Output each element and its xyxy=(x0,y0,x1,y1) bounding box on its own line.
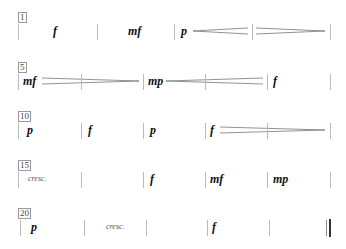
dynamic-mark: mp xyxy=(273,172,288,186)
measure-number: 5 xyxy=(18,62,27,73)
dynamic-mark: p xyxy=(27,123,33,137)
system-1: 1 f mf p xyxy=(0,12,346,52)
dynamic-mark: f xyxy=(273,74,277,88)
system-5: 20 p cresc. f xyxy=(0,208,346,248)
barline xyxy=(174,24,175,40)
barline xyxy=(18,123,19,139)
barline xyxy=(20,220,21,236)
measure-number: 1 xyxy=(18,12,27,23)
dynamic-mark: f xyxy=(150,172,154,186)
barline xyxy=(81,172,82,188)
dynamic-mark: mf xyxy=(210,172,223,186)
barline xyxy=(330,24,331,40)
crescendo-hairpin xyxy=(166,77,264,85)
barline xyxy=(81,123,82,139)
measure-number: 15 xyxy=(18,160,31,171)
dynamic-mark: mp xyxy=(148,74,163,88)
barline xyxy=(81,74,82,90)
system-4: 15 cresc. f mf mp xyxy=(0,160,346,200)
barline xyxy=(267,74,268,90)
final-barline-thin xyxy=(326,220,327,236)
expression-text: cresc. xyxy=(28,174,47,184)
measure-number: 20 xyxy=(18,208,31,219)
final-barline-thick xyxy=(329,219,331,237)
barline xyxy=(146,220,147,236)
dynamic-mark: p xyxy=(150,123,156,137)
barline xyxy=(269,220,270,236)
dynamic-mark: f xyxy=(210,123,214,137)
barline xyxy=(143,172,144,188)
barline xyxy=(330,74,331,90)
barline xyxy=(330,123,331,139)
expression-text: cresc. xyxy=(106,222,125,232)
barline xyxy=(207,220,208,236)
barline xyxy=(97,24,98,40)
barline xyxy=(143,123,144,139)
barline xyxy=(84,220,85,236)
system-3: 10 p f p f xyxy=(0,111,346,151)
dynamic-mark: mf xyxy=(128,24,141,38)
crescendo-hairpin xyxy=(193,27,249,35)
barline xyxy=(267,123,268,139)
barline xyxy=(18,74,19,90)
decrescendo-hairpin xyxy=(220,126,326,134)
dynamic-mark: p xyxy=(31,220,37,234)
dynamic-mark: f xyxy=(53,24,57,38)
dynamic-mark: p xyxy=(181,24,187,38)
system-2: 5 mf mp f xyxy=(0,62,346,102)
decrescendo-hairpin xyxy=(256,27,326,35)
dynamic-mark: f xyxy=(88,123,92,137)
barline xyxy=(205,74,206,90)
dynamic-mark: mf xyxy=(23,74,36,88)
barline xyxy=(330,172,331,188)
barline xyxy=(18,172,19,188)
dynamic-mark: f xyxy=(212,220,216,234)
barline xyxy=(267,172,268,188)
barline xyxy=(205,172,206,188)
measure-number: 10 xyxy=(18,111,31,122)
barline xyxy=(143,74,144,90)
barline xyxy=(205,123,206,139)
barline xyxy=(18,24,19,40)
decrescendo-hairpin xyxy=(42,77,140,85)
barline xyxy=(252,24,253,40)
